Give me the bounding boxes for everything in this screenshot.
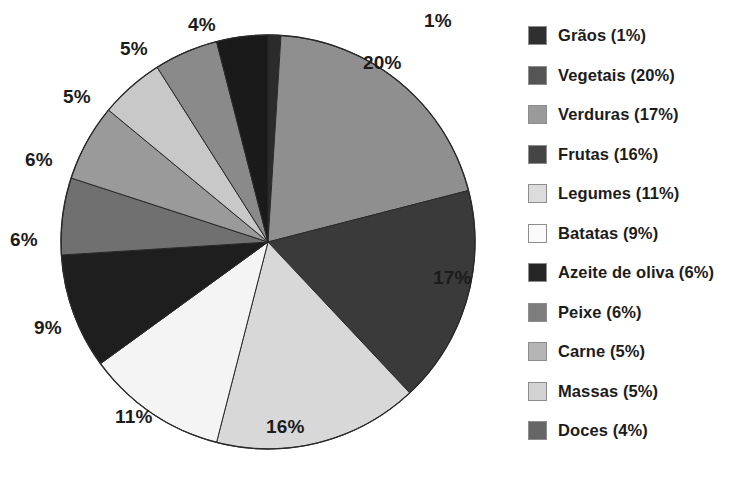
pie-slice-percent-label: 6% — [10, 229, 38, 251]
legend-item[interactable]: Grãos (1%) — [528, 16, 733, 56]
pie-chart-figure: 1%20%17%16%11%9%6%6%5%5%4% Grãos (1%)Veg… — [0, 0, 737, 478]
pie-chart-plot-area: 1%20%17%16%11%9%6%6%5%5%4% — [0, 0, 510, 478]
legend-item-label: Frutas (16%) — [558, 145, 658, 164]
legend-item[interactable]: Carne (5%) — [528, 332, 733, 372]
legend-item-label: Doces (4%) — [558, 421, 648, 440]
pie-slice-percent-label: 6% — [25, 149, 53, 171]
legend-color-swatch — [528, 66, 547, 85]
legend-color-swatch — [528, 145, 547, 164]
pie-slice-percent-label: 1% — [424, 10, 452, 32]
legend-color-swatch — [528, 382, 547, 401]
legend-item[interactable]: Doces (4%) — [528, 411, 733, 451]
legend-color-swatch — [528, 421, 547, 440]
legend-item[interactable]: Peixe (6%) — [528, 293, 733, 333]
legend-color-swatch — [528, 342, 547, 361]
pie-slice-percent-label: 11% — [115, 406, 153, 428]
legend-item-label: Batatas (9%) — [558, 224, 658, 243]
legend-item-label: Massas (5%) — [558, 382, 658, 401]
pie-slice-percent-label: 5% — [120, 38, 148, 60]
legend-item[interactable]: Legumes (11%) — [528, 174, 733, 214]
pie-svg — [58, 32, 478, 452]
pie-slice-percent-label: 9% — [34, 317, 62, 339]
legend-item[interactable]: Verduras (17%) — [528, 95, 733, 135]
legend-color-swatch — [528, 26, 547, 45]
legend-item-label: Grãos (1%) — [558, 26, 646, 45]
pie-slice-percent-label: 20% — [363, 52, 402, 74]
pie-slice-percent-label: 5% — [63, 86, 91, 108]
legend-item[interactable]: Frutas (16%) — [528, 135, 733, 175]
legend-color-swatch — [528, 184, 547, 203]
legend-item-label: Azeite de oliva (6%) — [558, 263, 714, 282]
legend-item[interactable]: Vegetais (20%) — [528, 56, 733, 96]
legend-item-label: Vegetais (20%) — [558, 66, 675, 85]
legend-color-swatch — [528, 224, 547, 243]
legend-item-label: Peixe (6%) — [558, 303, 642, 322]
legend-item[interactable]: Batatas (9%) — [528, 214, 733, 254]
pie-slice-percent-label: 16% — [266, 416, 305, 438]
legend-item-label: Legumes (11%) — [558, 184, 679, 203]
chart-legend: Grãos (1%)Vegetais (20%)Verduras (17%)Fr… — [528, 16, 733, 451]
pie-slice-percent-label: 17% — [433, 267, 472, 289]
legend-item[interactable]: Azeite de oliva (6%) — [528, 253, 733, 293]
legend-item-label: Verduras (17%) — [558, 105, 679, 124]
legend-item-label: Carne (5%) — [558, 342, 645, 361]
legend-color-swatch — [528, 105, 547, 124]
pie-slice-percent-label: 4% — [188, 14, 216, 36]
legend-color-swatch — [528, 303, 547, 322]
legend-color-swatch — [528, 263, 547, 282]
legend-item[interactable]: Massas (5%) — [528, 372, 733, 412]
